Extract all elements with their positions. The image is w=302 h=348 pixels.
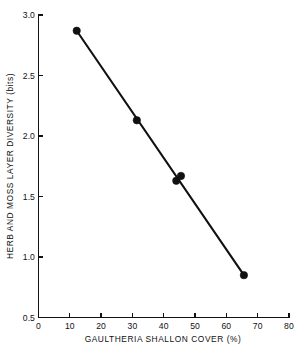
- x-tick-label-20: 20: [96, 321, 106, 331]
- x-tick-label-80: 80: [284, 321, 294, 331]
- x-axis-title: GAULTHERIA SHALLON COVER (%): [85, 334, 242, 344]
- x-axis-tick-labels: 01020304050607080: [36, 321, 294, 331]
- y-axis-tick-labels: 0.51.01.52.02.53.0: [23, 10, 35, 323]
- x-tick-label-0: 0: [36, 321, 41, 331]
- data-series: [73, 27, 248, 279]
- data-point: [240, 271, 247, 278]
- y-tick-label-1.5: 1.5: [23, 192, 35, 202]
- x-tick-label-70: 70: [253, 321, 263, 331]
- y-tick-label-2.5: 2.5: [23, 71, 35, 81]
- data-point: [177, 172, 184, 179]
- data-point: [73, 27, 80, 34]
- y-tick-label-0.5: 0.5: [23, 313, 35, 323]
- x-tick-label-10: 10: [65, 321, 75, 331]
- y-axis-title: HERB AND MOSS LAYER DIVERSITY (bits): [5, 73, 15, 259]
- x-tick-label-30: 30: [128, 321, 138, 331]
- x-tick-label-40: 40: [159, 321, 169, 331]
- data-point: [133, 117, 140, 124]
- chart-figure: 0.51.01.52.02.53.0 01020304050607080 GAU…: [0, 0, 302, 348]
- y-tick-label-3.0: 3.0: [23, 10, 35, 20]
- x-axis: 01020304050607080: [36, 313, 294, 331]
- y-axis: 0.51.01.52.02.53.0: [23, 10, 43, 323]
- y-tick-label-1.0: 1.0: [23, 252, 35, 262]
- chart-canvas: 0.51.01.52.02.53.0 01020304050607080 GAU…: [0, 0, 302, 348]
- x-tick-label-50: 50: [190, 321, 200, 331]
- y-tick-label-2.0: 2.0: [23, 131, 35, 141]
- x-tick-label-60: 60: [221, 321, 231, 331]
- series-line-herb-moss-diversity: [77, 31, 244, 275]
